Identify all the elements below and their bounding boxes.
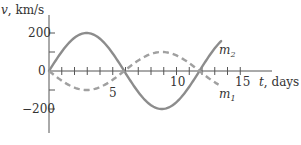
x-axis-label: t, days xyxy=(259,76,299,88)
m1-base: m xyxy=(219,87,230,101)
y-tick-0: 0 xyxy=(38,65,46,77)
m1-annotation: m1 xyxy=(219,88,235,103)
x-tick-5: 5 xyxy=(109,87,117,99)
m2-annotation: m2 xyxy=(219,44,235,59)
x-tick-15: 15 xyxy=(235,76,250,88)
y-axis-label: v, km/s xyxy=(1,4,44,16)
y-axis-var: v xyxy=(1,3,8,17)
m2-base: m xyxy=(219,43,230,57)
y-axis-unit: , km/s xyxy=(8,3,44,17)
y-tick-neg200: −200 xyxy=(22,103,55,115)
m1-sub: 1 xyxy=(230,94,235,103)
y-tick-200: 200 xyxy=(28,27,51,39)
m2-sub: 2 xyxy=(230,50,235,59)
x-tick-10: 10 xyxy=(170,76,185,88)
x-axis-unit: , days xyxy=(264,75,299,89)
